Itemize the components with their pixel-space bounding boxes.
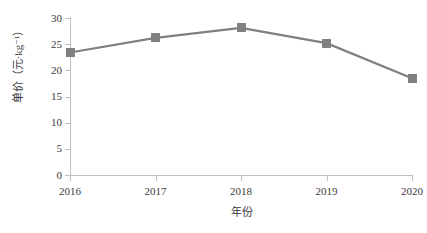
data-point-marker [66, 48, 75, 57]
x-axis-title: 年份 [70, 206, 413, 218]
data-point-marker [408, 74, 417, 83]
data-point-marker [151, 33, 160, 42]
series-line-layer [0, 0, 427, 233]
series-polyline [70, 28, 412, 78]
data-point-marker [237, 23, 246, 32]
data-point-marker [322, 39, 331, 48]
line-chart: 单价（元·kg⁻¹） 051015202530 2016201720182019… [0, 0, 427, 233]
